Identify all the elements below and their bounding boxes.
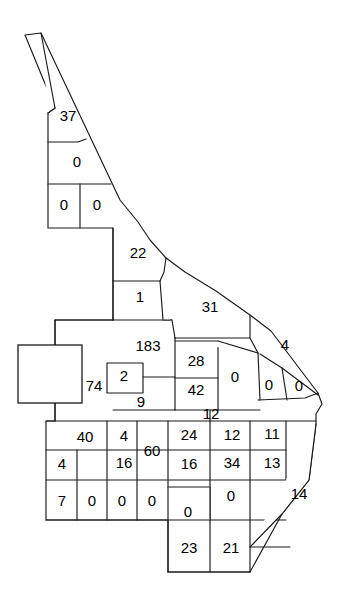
inset-overlay-box xyxy=(18,345,82,403)
region-value-label: 0 xyxy=(227,487,235,504)
map-canvas: 3700022131183428074242009124042412116041… xyxy=(0,0,362,605)
region-value-label: 13 xyxy=(264,454,281,471)
region-value-label: 9 xyxy=(137,393,145,410)
region-value-label: 7 xyxy=(58,492,66,509)
region-value-label: 4 xyxy=(58,455,66,472)
region-value-label: 24 xyxy=(181,426,198,443)
region-value-label: 74 xyxy=(86,377,103,394)
region-value-label: 0 xyxy=(60,196,68,213)
region-map-figure: 3700022131183428074242009124042412116041… xyxy=(0,0,362,605)
region-value-label: 31 xyxy=(202,298,219,315)
region-value-label: 12 xyxy=(203,405,220,422)
region-value-label: 16 xyxy=(116,454,133,471)
region-value-label: 14 xyxy=(291,485,308,502)
region-value-label: 34 xyxy=(224,454,241,471)
region-value-label: 183 xyxy=(135,337,160,354)
region-value-label: 60 xyxy=(144,442,161,459)
region-value-label: 4 xyxy=(281,336,289,353)
region-value-label: 4 xyxy=(120,427,128,444)
region-value-label: 22 xyxy=(130,244,147,261)
region-value-label: 40 xyxy=(77,428,94,445)
region-value-label: 0 xyxy=(73,153,81,170)
region-value-label: 28 xyxy=(188,352,205,369)
region-value-label: 21 xyxy=(223,539,240,556)
region-value-label: 16 xyxy=(181,455,198,472)
region-value-label: 12 xyxy=(224,426,241,443)
region-value-label: 1 xyxy=(136,288,144,305)
region-value-label: 0 xyxy=(93,196,101,213)
region-value-label: 23 xyxy=(181,539,198,556)
region-value-label: 11 xyxy=(264,425,280,442)
region-value-label: 0 xyxy=(231,368,239,385)
region-value-label: 0 xyxy=(184,503,192,520)
region-value-label: 0 xyxy=(148,492,156,509)
region-value-label: 2 xyxy=(120,367,128,384)
region-value-label: 37 xyxy=(60,107,77,124)
region-value-label: 0 xyxy=(265,376,273,393)
region-value-label: 0 xyxy=(118,492,126,509)
region-value-label: 42 xyxy=(188,381,205,398)
region-value-label: 0 xyxy=(88,492,96,509)
region-value-label: 0 xyxy=(295,377,303,394)
